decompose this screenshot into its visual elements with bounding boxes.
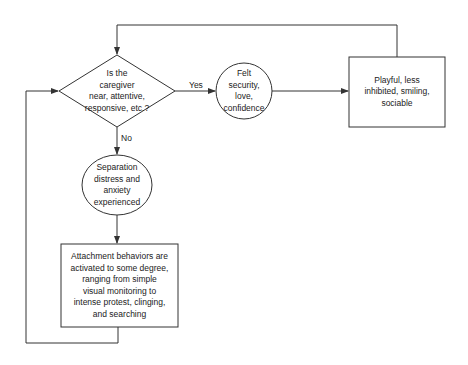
playful-text: Playful, less inhibited, smiling, sociab… [350, 58, 444, 126]
decision-text: Is the caregiver near, attentive, respon… [72, 60, 162, 122]
attachment-text: Attachment behaviors are activated to so… [62, 245, 177, 326]
felt-security-text: Felt security, love, confidence [216, 63, 272, 119]
separation-text: Separation distress and anxiety experien… [82, 157, 152, 213]
yes-label: Yes [189, 80, 203, 90]
no-label: No [121, 133, 132, 143]
